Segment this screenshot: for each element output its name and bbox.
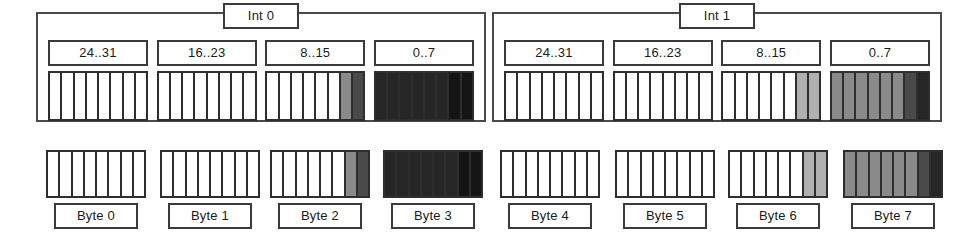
bit-strip xyxy=(830,71,930,121)
bit-cell xyxy=(691,152,703,196)
byte-block-4: Byte 4 xyxy=(500,150,600,229)
bit-cell xyxy=(446,152,458,196)
bit-cell xyxy=(75,73,87,119)
bit-cell xyxy=(124,73,136,119)
bit-cell xyxy=(654,152,666,196)
bit-cell xyxy=(627,73,639,119)
bit-cell xyxy=(742,152,754,196)
bit-group-label: 8..15 xyxy=(265,40,365,66)
bit-group-label: 0..7 xyxy=(374,40,474,66)
bit-cell xyxy=(809,73,819,119)
byte-label: Byte 6 xyxy=(736,203,820,229)
bit-cell xyxy=(413,73,425,119)
bit-cell xyxy=(358,152,368,196)
bit-cell xyxy=(211,152,223,196)
bit-cell xyxy=(502,152,514,196)
bit-cell xyxy=(518,73,530,119)
bit-cell xyxy=(48,152,60,196)
bit-cell xyxy=(297,152,309,196)
bit-cell xyxy=(514,152,526,196)
bit-cell xyxy=(159,73,171,119)
bit-strip xyxy=(728,150,828,198)
bit-cell xyxy=(785,73,797,119)
bit-cell xyxy=(881,73,893,119)
bit-cell xyxy=(122,152,134,196)
bit-cell xyxy=(664,73,676,119)
bit-cell xyxy=(893,73,905,119)
bit-cell xyxy=(471,152,481,196)
bit-cell xyxy=(99,73,111,119)
bit-cell xyxy=(857,152,869,196)
bit-cell xyxy=(804,152,816,196)
bit-cell xyxy=(882,152,894,196)
bit-cell xyxy=(797,73,809,119)
bit-group-16-23-int0: 16..23 xyxy=(157,40,257,121)
int-row: Int 0 24..31 16..23 8..15 0..7 Int 1 xyxy=(0,0,972,136)
bit-group-list-1: 24..31 16..23 8..15 0..7 xyxy=(504,40,930,121)
bit-group-label: 24..31 xyxy=(504,40,604,66)
bit-cell xyxy=(316,73,328,119)
bit-cell xyxy=(385,152,397,196)
bit-cell xyxy=(174,152,186,196)
bit-cell xyxy=(333,152,345,196)
bit-group-24-31-int1: 24..31 xyxy=(504,40,604,121)
bit-cell xyxy=(388,73,400,119)
byte-block-6: Byte 6 xyxy=(728,150,828,229)
bit-cell xyxy=(248,152,258,196)
byte-label: Byte 0 xyxy=(54,203,138,229)
bit-cell xyxy=(400,73,412,119)
bit-cell xyxy=(576,152,588,196)
byte-block-3: Byte 3 xyxy=(383,150,483,229)
bit-cell xyxy=(171,73,183,119)
bit-strip xyxy=(500,150,600,198)
bit-cell xyxy=(906,152,918,196)
bit-cell xyxy=(563,152,575,196)
bit-cell xyxy=(856,73,868,119)
bit-group-label: 16..23 xyxy=(157,40,257,66)
bit-cell xyxy=(531,73,543,119)
bit-cell xyxy=(309,152,321,196)
bit-cell xyxy=(346,152,358,196)
bit-cell xyxy=(462,73,472,119)
bit-cell xyxy=(615,73,627,119)
bit-group-8-15-int1: 8..15 xyxy=(721,40,821,121)
bit-group-24-31-int0: 24..31 xyxy=(48,40,148,121)
byte-label: Byte 1 xyxy=(168,203,252,229)
bit-cell xyxy=(678,152,690,196)
bit-strip xyxy=(157,71,257,121)
int-container-1: Int 1 24..31 16..23 8..15 0..7 xyxy=(492,12,942,122)
bit-cell xyxy=(918,73,928,119)
bit-cell xyxy=(425,73,437,119)
bit-cell xyxy=(134,152,144,196)
bit-cell xyxy=(894,152,906,196)
bit-cell xyxy=(551,152,563,196)
bit-cell xyxy=(410,152,422,196)
bit-cell xyxy=(870,152,882,196)
byte-label: Byte 3 xyxy=(391,203,475,229)
int-title-1: Int 1 xyxy=(679,3,755,29)
byte-row: Byte 0 Byte 1 Byte 2 Byte 3 Byte 4 Byte … xyxy=(0,142,972,238)
bit-strip xyxy=(48,71,148,121)
bit-cell xyxy=(767,152,779,196)
bit-cell xyxy=(136,73,146,119)
bit-cell xyxy=(162,152,174,196)
bit-cell xyxy=(736,73,748,119)
bit-cell xyxy=(244,73,254,119)
bit-cell xyxy=(688,73,700,119)
bit-cell xyxy=(459,152,471,196)
bit-cell xyxy=(232,73,244,119)
bit-cell xyxy=(567,73,579,119)
bit-cell xyxy=(60,152,72,196)
bit-group-0-7-int0: 0..7 xyxy=(374,40,474,121)
bit-cell xyxy=(703,152,713,196)
bit-cell xyxy=(700,73,710,119)
bit-cell xyxy=(760,73,772,119)
bit-cell xyxy=(869,73,881,119)
bit-strip xyxy=(265,71,365,121)
bit-cell xyxy=(845,152,857,196)
bit-strip xyxy=(270,150,370,198)
bit-group-label: 0..7 xyxy=(830,40,930,66)
bit-cell xyxy=(195,73,207,119)
bit-cell xyxy=(292,73,304,119)
byte-label: Byte 5 xyxy=(623,203,707,229)
